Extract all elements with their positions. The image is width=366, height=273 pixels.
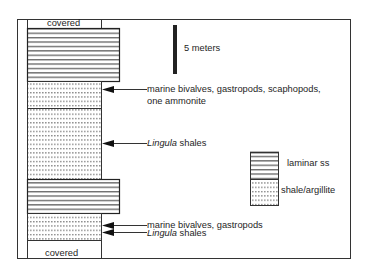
lingula-italic: Lingula xyxy=(147,138,177,148)
legend-swatch-shale xyxy=(251,180,279,206)
unit-shale-3 xyxy=(28,214,102,241)
legend-swatch-laminar-ss xyxy=(250,153,279,180)
legend-label-shale: shale/argillite xyxy=(281,185,335,195)
arrow-lingula-upper xyxy=(102,140,147,147)
annotation-lingula-lower: Lingula shales xyxy=(147,228,206,238)
scale-bar xyxy=(173,25,177,74)
shales-text: shales xyxy=(177,228,206,238)
covered-bottom-label: covered xyxy=(45,248,78,258)
unit-shale-1 xyxy=(28,82,102,109)
scale-bar-label: 5 meters xyxy=(184,43,220,53)
unit-ss-upper xyxy=(28,29,120,82)
covered-top-label: covered xyxy=(47,18,80,28)
shales-text: shales xyxy=(177,138,206,148)
annotation-lingula-upper: Lingula shales xyxy=(147,138,206,148)
unit-shale-2 xyxy=(28,109,102,180)
annotation-marine-upper-line2: one ammonite xyxy=(147,96,206,106)
annotation-marine-upper-line1: marine bivalves, gastropods, scaphopods, xyxy=(147,84,321,94)
arrow-lingula-lower xyxy=(102,229,147,236)
legend-label-laminar-ss: laminar ss xyxy=(287,158,329,168)
unit-ss-lower xyxy=(28,180,120,214)
lingula-italic: Lingula xyxy=(147,228,177,238)
arrow-marine-lower xyxy=(102,222,147,229)
arrow-marine-upper xyxy=(102,86,147,93)
